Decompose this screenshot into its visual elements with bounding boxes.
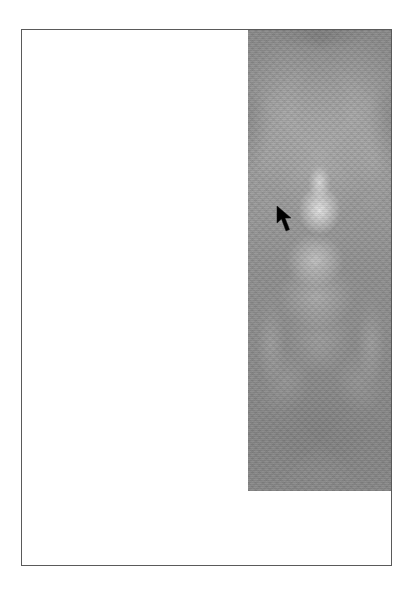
image-noise-layer [248,30,391,491]
document-page[interactable] [21,29,392,566]
fractal-image[interactable] [248,30,391,491]
screen [0,0,414,596]
